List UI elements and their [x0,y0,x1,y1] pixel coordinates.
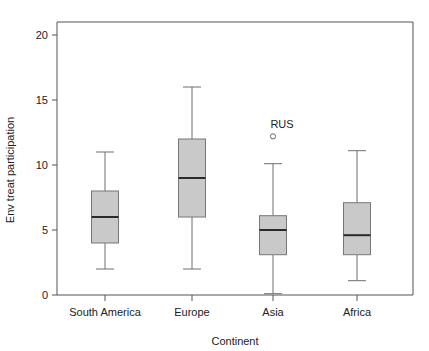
y-tick-label: 0 [42,289,48,301]
y-tick-label: 10 [36,159,48,171]
x-tick-label-africa: Africa [343,306,372,318]
outlier-label: RUS [270,118,293,130]
x-tick-label-south-america: South America [69,306,141,318]
y-axis-title: Env treat participation [4,117,16,223]
y-tick-label: 15 [36,94,48,106]
chart-canvas: 05101520 South AmericaEuropeAsiaAfrica R… [0,0,429,351]
chart-background [0,0,429,351]
boxplot-chart: 05101520 South AmericaEuropeAsiaAfrica R… [0,0,429,351]
x-tick-label-europe: Europe [174,306,209,318]
y-tick-label: 5 [42,224,48,236]
box-iqr [344,203,371,255]
y-tick-label: 20 [36,29,48,41]
x-axis-title: Continent [211,335,258,347]
box-iqr [260,216,287,255]
x-tick-label-asia: Asia [262,306,284,318]
